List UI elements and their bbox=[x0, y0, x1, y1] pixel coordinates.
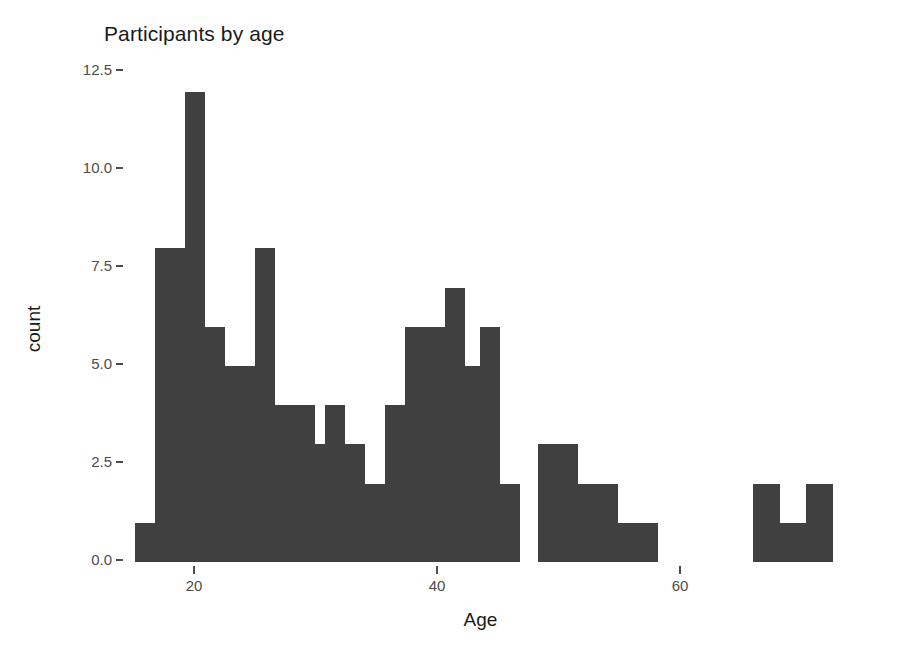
histogram-bar bbox=[425, 327, 445, 562]
histogram-bar bbox=[578, 484, 618, 562]
y-tick-mark bbox=[116, 461, 123, 463]
histogram-bar bbox=[480, 327, 500, 562]
histogram-bar bbox=[405, 327, 425, 562]
histogram-bar bbox=[305, 444, 325, 562]
histogram-bar bbox=[155, 248, 175, 562]
x-axis-title: Age bbox=[0, 609, 911, 631]
histogram-bar bbox=[806, 484, 833, 562]
x-axis-title-label: Age bbox=[464, 609, 498, 631]
y-tick-label: 2.5 bbox=[42, 453, 112, 470]
x-tick-label: 60 bbox=[650, 577, 710, 594]
histogram-bar bbox=[780, 523, 806, 562]
y-tick-label: 10.0 bbox=[42, 159, 112, 176]
histogram-bar bbox=[135, 523, 155, 562]
y-tick-mark bbox=[116, 559, 123, 561]
histogram-bar bbox=[255, 248, 275, 562]
plot-area bbox=[125, 60, 895, 562]
histogram-bar bbox=[225, 366, 245, 562]
histogram-bar bbox=[185, 92, 205, 562]
y-tick-label: 12.5 bbox=[42, 61, 112, 78]
y-tick-label: 7.5 bbox=[42, 257, 112, 274]
x-tick-label: 20 bbox=[164, 577, 224, 594]
histogram-bar bbox=[385, 405, 405, 562]
x-tick-mark bbox=[436, 566, 438, 574]
y-tick-mark bbox=[116, 265, 123, 267]
histogram-bar bbox=[205, 327, 225, 562]
y-tick-label: 0.0 bbox=[42, 551, 112, 568]
histogram-bar bbox=[365, 484, 385, 562]
y-tick-mark bbox=[116, 167, 123, 169]
histogram-bar bbox=[500, 484, 520, 562]
histogram-chart: Participants by age count Age 0.02.55.07… bbox=[0, 0, 911, 657]
histogram-bar bbox=[618, 523, 658, 562]
histogram-bar bbox=[753, 484, 780, 562]
x-tick-label: 40 bbox=[407, 577, 467, 594]
x-tick-mark bbox=[193, 566, 195, 574]
chart-title: Participants by age bbox=[104, 22, 285, 46]
x-tick-mark bbox=[679, 566, 681, 574]
y-tick-mark bbox=[116, 363, 123, 365]
histogram-bar bbox=[538, 444, 578, 562]
histogram-bar bbox=[445, 288, 465, 562]
y-axis-title-label: count bbox=[23, 305, 45, 351]
histogram-bar bbox=[325, 405, 345, 562]
histogram-bar bbox=[275, 405, 295, 562]
y-tick-mark bbox=[116, 69, 123, 71]
y-tick-label: 5.0 bbox=[42, 355, 112, 372]
histogram-bar bbox=[345, 444, 365, 562]
